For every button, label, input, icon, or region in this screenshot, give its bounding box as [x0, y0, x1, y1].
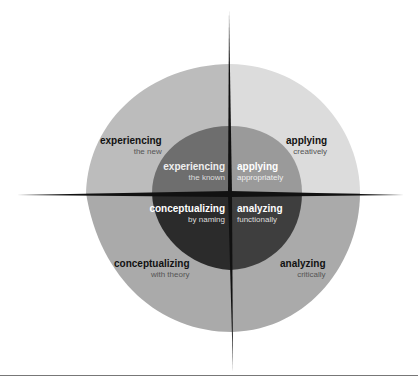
- label-title: experiencing: [100, 136, 162, 146]
- label-title: conceptualizing: [149, 204, 225, 214]
- quadrant-diagram: [0, 0, 418, 390]
- label-title: applying: [286, 136, 327, 146]
- label-experiencing-the-known: experiencing the known: [163, 162, 225, 182]
- label-applying-appropriately: applying appropriately: [237, 162, 283, 182]
- label-conceptualizing-with-theory: conceptualizing with theory: [114, 259, 190, 279]
- label-title: conceptualizing: [114, 259, 190, 269]
- label-sub: by naming: [149, 216, 225, 224]
- label-sub: appropriately: [237, 174, 283, 182]
- label-title: analyzing: [237, 204, 283, 214]
- label-analyzing-critically: analyzing critically: [280, 259, 326, 279]
- label-title: applying: [237, 162, 283, 172]
- label-conceptualizing-by-naming: conceptualizing by naming: [149, 204, 225, 224]
- label-sub: the known: [163, 174, 225, 182]
- label-sub: creatively: [286, 148, 327, 156]
- label-sub: with theory: [114, 271, 190, 279]
- label-title: analyzing: [280, 259, 326, 269]
- label-sub: critically: [280, 271, 326, 279]
- label-analyzing-functionally: analyzing functionally: [237, 204, 283, 224]
- label-experiencing-the-new: experiencing the new: [100, 136, 162, 156]
- label-applying-creatively: applying creatively: [286, 136, 327, 156]
- label-sub: the new: [100, 148, 162, 156]
- label-title: experiencing: [163, 162, 225, 172]
- label-sub: functionally: [237, 216, 283, 224]
